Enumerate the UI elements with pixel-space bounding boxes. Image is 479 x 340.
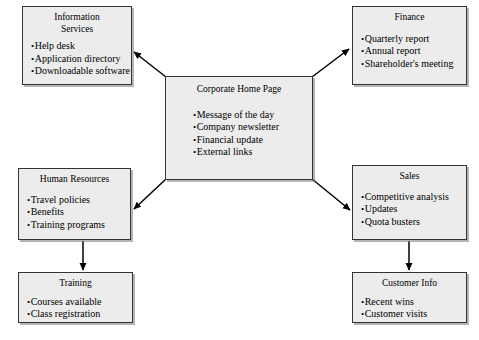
node-training[interactable]: Training Courses available Class registr… — [18, 272, 133, 323]
list-item: Quota busters — [357, 216, 466, 229]
node-title: Finance — [353, 11, 466, 24]
list-item: Courses available — [23, 296, 132, 309]
node-title: Training — [19, 277, 132, 290]
list-item: Shareholder's meeting — [357, 58, 466, 71]
list-item: Benefits — [23, 206, 130, 219]
list-item: Travel policies — [23, 194, 130, 207]
list-item: Financial update — [189, 134, 312, 147]
list-item: Customer visits — [357, 308, 466, 321]
list-item: Message of the day — [189, 109, 312, 122]
list-item: Updates — [357, 203, 466, 216]
node-item-list: Competitive analysis Updates Quota buste… — [353, 191, 466, 229]
node-title: Sales — [353, 170, 466, 183]
list-item: Downloadable software — [27, 65, 131, 78]
list-item: Application directory — [27, 53, 131, 66]
edge-home-to-finance — [312, 49, 349, 77]
list-item: Recent wins — [357, 296, 466, 309]
diagram-canvas: Information Services Help desk Applicati… — [0, 0, 479, 340]
list-item: Help desk — [27, 40, 131, 53]
node-item-list: Message of the day Company newsletter Fi… — [166, 109, 312, 159]
node-title: Customer Info — [353, 277, 466, 290]
node-corporate-home-page[interactable]: Corporate Home Page Message of the day C… — [165, 76, 313, 180]
list-item: Class registration — [23, 308, 132, 321]
node-information-services[interactable]: Information Services Help desk Applicati… — [22, 6, 132, 85]
node-title: Corporate Home Page — [166, 81, 312, 96]
edge-home-to-information-services — [134, 52, 166, 77]
list-item: Annual report — [357, 45, 466, 58]
node-sales[interactable]: Sales Competitive analysis Updates Quota… — [352, 165, 467, 240]
edge-home-to-human-resources — [134, 179, 166, 209]
list-item: Company newsletter — [189, 121, 312, 134]
list-item: Quarterly report — [357, 33, 466, 46]
node-human-resources[interactable]: Human Resources Travel policies Benefits… — [18, 168, 131, 240]
list-item: Competitive analysis — [357, 191, 466, 204]
node-title: Information Services — [23, 11, 131, 35]
node-finance[interactable]: Finance Quarterly report Annual report S… — [352, 6, 467, 85]
list-item: Training programs — [23, 219, 130, 232]
node-title: Human Resources — [19, 173, 130, 186]
node-customer-info[interactable]: Customer Info Recent wins Customer visit… — [352, 272, 467, 323]
node-item-list: Courses available Class registration — [19, 296, 132, 321]
node-item-list: Recent wins Customer visits — [353, 296, 466, 321]
list-item: External links — [189, 146, 312, 159]
edge-home-to-sales — [312, 179, 350, 210]
node-item-list: Quarterly report Annual report Sharehold… — [353, 33, 466, 71]
node-item-list: Travel policies Benefits Training progra… — [19, 194, 130, 232]
node-item-list: Help desk Application directory Download… — [23, 40, 131, 78]
